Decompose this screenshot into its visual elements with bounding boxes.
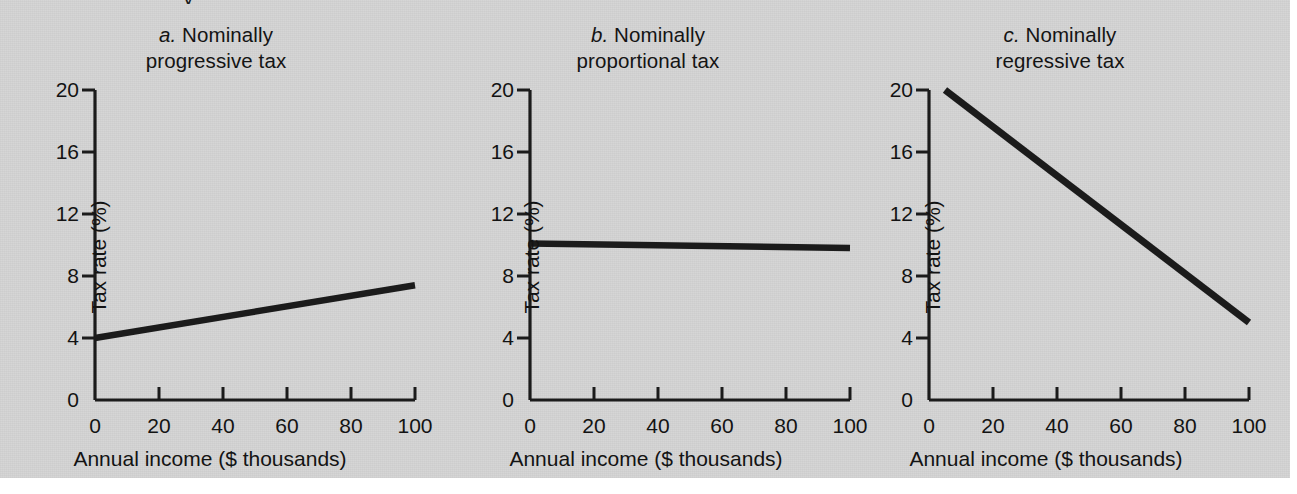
panel-a-xtick-label-0: 0 xyxy=(89,414,101,438)
panel-a-title-line2: progressive tax xyxy=(146,49,287,72)
panel-a-title: a. Nominally progressive tax xyxy=(0,22,432,74)
panel-b-title: b. Nominally proportional tax xyxy=(432,22,864,74)
panel-a-axes-svg xyxy=(55,72,455,432)
panel-b-axes-svg xyxy=(490,72,890,432)
panel-c-y-axis-label: Tax rate (%) xyxy=(921,157,945,357)
panel-c-ytick-label-4: 4 xyxy=(901,326,913,350)
panel-b-ytick-label-20: 20 xyxy=(491,78,514,102)
panel-b-plot-area: 20 16 12 8 4 0 0 20 40 60 80 100 Tax rat… xyxy=(530,90,850,400)
panel-c-ytick-label-12: 12 xyxy=(890,202,913,226)
panel-c-plot-area: 20 16 12 8 4 0 0 20 40 60 80 100 Tax rat… xyxy=(929,90,1249,400)
panel-c-title-line2: regressive tax xyxy=(995,49,1124,72)
panel-a-plot-area: 20 16 12 8 4 0 0 20 40 60 80 100 Tax rat… xyxy=(95,90,415,400)
panel-b-nominally-proportional-tax: b. Nominally proportional tax xyxy=(432,0,864,478)
panel-a-data-line xyxy=(95,285,415,338)
panel-c-xtick-label-80: 80 xyxy=(1173,414,1196,438)
panel-c-axes-svg xyxy=(889,72,1289,432)
panel-b-xtick-label-60: 60 xyxy=(710,414,733,438)
panel-c-nominally-regressive-tax: c. Nominally regressive tax 20 xyxy=(844,0,1276,478)
panel-a-xtick-label-40: 40 xyxy=(211,414,234,438)
panel-b-letter: b. xyxy=(591,23,608,46)
panel-a-letter: a. xyxy=(159,23,176,46)
panel-c-xtick-label-100: 100 xyxy=(1231,414,1266,438)
tax-rate-figure: y a. Nominally progressive tax xyxy=(0,0,1297,494)
panel-a-ytick-label-0: 0 xyxy=(67,388,79,412)
panel-b-data-line xyxy=(530,244,850,249)
panel-b-title-line2: proportional tax xyxy=(577,49,720,72)
panel-a-x-axis-label: Annual income ($ thousands) xyxy=(0,447,426,471)
panel-a-ytick-label-12: 12 xyxy=(56,202,79,226)
panel-a-xtick-label-20: 20 xyxy=(147,414,170,438)
panel-b-y-axis-label: Tax rate (%) xyxy=(520,157,544,357)
panel-b-x-axis-label: Annual income ($ thousands) xyxy=(430,447,862,471)
panel-c-xtick-label-0: 0 xyxy=(923,414,935,438)
panel-c-x-axis-label: Annual income ($ thousands) xyxy=(830,447,1262,471)
panel-b-ytick-label-4: 4 xyxy=(502,326,514,350)
panel-a-y-axis-label: Tax rate (%) xyxy=(87,157,111,357)
panel-c-letter: c. xyxy=(1004,23,1020,46)
panel-a-ytick-label-16: 16 xyxy=(56,140,79,164)
panel-a-nominally-progressive-tax: a. Nominally progressive tax xyxy=(0,0,432,478)
page-right-margin xyxy=(1290,0,1297,494)
panel-a-ytick-label-8: 8 xyxy=(67,264,79,288)
panel-a-xtick-label-60: 60 xyxy=(275,414,298,438)
panel-b-ytick-label-16: 16 xyxy=(491,140,514,164)
panel-b-ytick-label-0: 0 xyxy=(502,388,514,412)
panel-b-xtick-label-0: 0 xyxy=(524,414,536,438)
panel-b-ytick-label-12: 12 xyxy=(491,202,514,226)
panel-a-title-line1: Nominally xyxy=(182,23,273,46)
panel-b-title-line1: Nominally xyxy=(614,23,705,46)
panel-c-data-line xyxy=(945,90,1249,323)
panel-c-xtick-label-60: 60 xyxy=(1109,414,1132,438)
panel-a-ytick-label-20: 20 xyxy=(56,78,79,102)
panel-c-xtick-label-20: 20 xyxy=(981,414,1004,438)
panel-c-ytick-label-20: 20 xyxy=(890,78,913,102)
panel-c-ytick-label-16: 16 xyxy=(890,140,913,164)
panel-a-ytick-label-4: 4 xyxy=(67,326,79,350)
page-bottom-margin xyxy=(0,478,1297,494)
panel-a-xtick-label-80: 80 xyxy=(339,414,362,438)
panel-a-xtick-label-100: 100 xyxy=(397,414,432,438)
panel-c-ytick-label-8: 8 xyxy=(901,264,913,288)
panel-c-title-line1: Nominally xyxy=(1026,23,1117,46)
panel-b-xtick-label-80: 80 xyxy=(774,414,797,438)
panel-c-title: c. Nominally regressive tax xyxy=(844,22,1276,74)
panel-b-xtick-label-20: 20 xyxy=(582,414,605,438)
panel-c-xtick-label-40: 40 xyxy=(1045,414,1068,438)
panel-c-ytick-label-0: 0 xyxy=(901,388,913,412)
panel-b-xtick-label-40: 40 xyxy=(646,414,669,438)
panel-b-ytick-label-8: 8 xyxy=(502,264,514,288)
